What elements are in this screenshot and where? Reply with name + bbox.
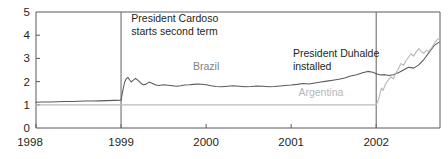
y-tick-label-0: 0 [24,122,30,134]
annotation-cardoso-line-1: President Cardoso [131,12,218,24]
annotation-duhalde-line-1: President Duhalde [293,47,380,59]
series-label-brazil: Brazil [193,60,219,72]
x-tick-label-1999: 1999 [108,136,134,148]
y-tick-label-4: 4 [24,29,31,41]
annotation-cardoso-line-2: starts second term [131,25,218,37]
x-tick-label-1998: 1998 [17,136,43,148]
x-tick-label-2002: 2002 [363,136,389,148]
series-label-argentina: Argentina [298,86,343,98]
y-tick-label-5: 5 [24,6,30,18]
x-tick-label-2000: 2000 [193,136,219,148]
y-tick-label-2: 2 [24,76,30,88]
chart-canvas: 01234519981999200020012002BrazilArgentin… [0,0,448,159]
y-tick-label-3: 3 [24,52,30,64]
y-tick-label-1: 1 [24,99,30,111]
annotation-duhalde-line-2: installed [293,60,332,72]
plot-frame [36,12,440,128]
x-tick-label-2001: 2001 [278,136,304,148]
exchange-rate-chart: 01234519981999200020012002BrazilArgentin… [0,0,448,159]
